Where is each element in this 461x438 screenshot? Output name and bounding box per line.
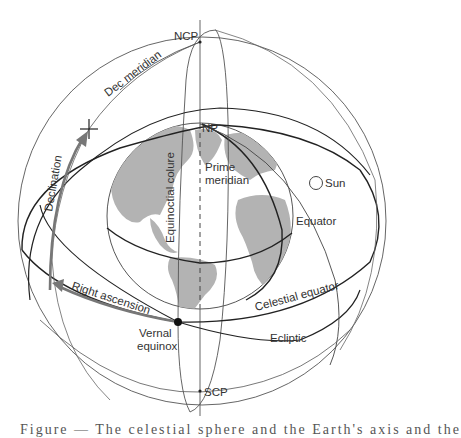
sun-icon xyxy=(310,177,323,190)
ecliptic-label: Ecliptic xyxy=(270,332,307,344)
declination-label: Declination xyxy=(42,154,64,212)
ncp-point xyxy=(198,40,201,43)
vernal-equinox-label-2: equinox xyxy=(137,340,178,352)
equinoctial-colure-label: Equinoctial colure xyxy=(164,152,176,243)
dec-meridian-label: Dec meridian xyxy=(102,48,163,98)
np-label: NP xyxy=(202,122,218,134)
prime-meridian-label-2: meridian xyxy=(205,174,249,186)
equator-label: Equator xyxy=(296,215,336,227)
scp-point xyxy=(198,389,201,392)
vernal-equinox-label-1: Vernal xyxy=(139,327,172,339)
prime-meridian-label-1: Prime xyxy=(205,161,235,173)
vernal-equinox-point xyxy=(174,318,182,326)
figure-caption: Figure — The celestial sphere and the Ea… xyxy=(20,422,461,438)
sun-label: Sun xyxy=(325,177,345,189)
scp-label: SCP xyxy=(204,386,228,398)
ncp-label: NCP xyxy=(174,30,199,42)
